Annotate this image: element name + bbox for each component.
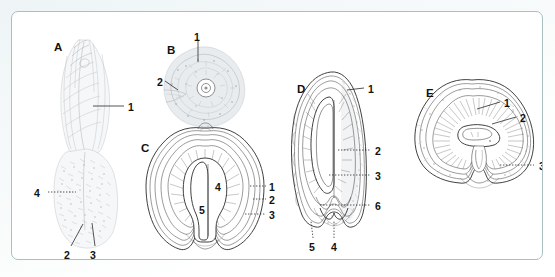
panel-c-specimen: [136, 122, 276, 257]
callout-a-1: 1: [128, 102, 134, 113]
callout-d-4: 4: [331, 242, 337, 253]
callout-d-3: 3: [375, 171, 381, 182]
callout-c-4: 4: [215, 182, 221, 193]
panel-letter-a: A: [54, 42, 62, 54]
callout-c-1: 1: [269, 182, 275, 193]
callout-c-5: 5: [199, 205, 205, 216]
callout-c-3: 3: [269, 210, 275, 221]
callout-a-4: 4: [34, 188, 40, 199]
callout-b-2: 2: [157, 77, 163, 88]
callout-e-1: 1: [504, 98, 510, 109]
callout-e-3: 3: [539, 161, 543, 172]
callout-a-2: 2: [64, 250, 70, 260]
figure-root: A B C D E 1 4 2 3 1 2 4 5 1 2 3 1 2 3 6 …: [0, 0, 555, 277]
callout-e-2: 2: [520, 113, 526, 124]
callout-c-2: 2: [269, 195, 275, 206]
panel-letter-e: E: [426, 88, 434, 100]
callout-d-6: 6: [375, 201, 381, 212]
panel-letter-b: B: [167, 45, 175, 57]
callout-d-5: 5: [309, 242, 315, 253]
callout-d-2: 2: [375, 146, 381, 157]
plate-frame: A B C D E 1 4 2 3 1 2 4 5 1 2 3 1 2 3 6 …: [11, 11, 543, 260]
callout-a-3: 3: [90, 250, 96, 260]
panel-a-specimen: [30, 26, 140, 241]
panel-letter-d: D: [297, 84, 305, 96]
callout-d-1: 1: [368, 84, 374, 95]
callout-b-1: 1: [194, 32, 200, 43]
panel-letter-c: C: [141, 143, 149, 155]
